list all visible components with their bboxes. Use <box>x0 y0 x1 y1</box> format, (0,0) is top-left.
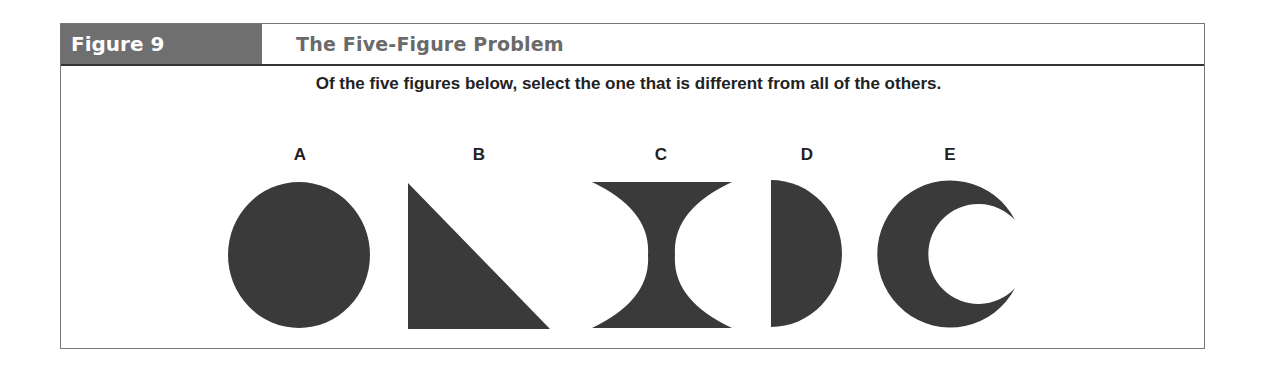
option-a-circle-shape[interactable] <box>228 182 370 328</box>
option-c-hourglass-shape[interactable] <box>592 182 732 328</box>
option-d-halfcircle-shape[interactable] <box>771 180 842 327</box>
figure-shapes <box>0 0 1265 369</box>
option-b-triangle-shape[interactable] <box>408 183 550 329</box>
option-e-crescent-shape[interactable] <box>877 181 1015 328</box>
